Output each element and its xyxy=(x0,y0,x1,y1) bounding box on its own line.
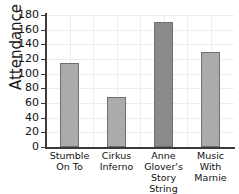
y-tick-label: 0 xyxy=(32,142,39,152)
y-tick-label: 120 xyxy=(18,54,39,64)
x-tick-label: MusicWithMarnie xyxy=(187,150,234,183)
x-axis-tick-labels: StumbleOn ToCirkusInfernoAnne Glover'sSt… xyxy=(46,150,234,194)
x-tick-label-line: With xyxy=(187,161,234,172)
y-tick-label: 80 xyxy=(25,83,39,93)
x-tick-label-line: Music xyxy=(187,150,234,161)
x-tick-label-line: Anne Glover's xyxy=(140,150,187,172)
y-tick-label: 140 xyxy=(18,39,39,49)
y-tick-label: 40 xyxy=(25,113,39,123)
bar xyxy=(60,63,79,147)
x-tick-label: Anne Glover'sStory StringWorld xyxy=(140,150,187,194)
x-tick-label: CirkusInferno xyxy=(93,150,140,172)
bar xyxy=(201,52,220,147)
y-axis-line xyxy=(45,13,47,149)
x-tick-label: StumbleOn To xyxy=(46,150,93,172)
bar-chart: Attendance 020406080100120140160180 Stum… xyxy=(0,0,239,194)
x-tick-label-line: On To xyxy=(46,161,93,172)
x-axis-line xyxy=(45,147,235,149)
y-tick-label: 100 xyxy=(18,69,39,79)
x-tick-label-line: Cirkus xyxy=(93,150,140,161)
bar-series xyxy=(46,15,234,147)
y-tick-label: 160 xyxy=(18,25,39,35)
x-tick-label-line: Stumble xyxy=(46,150,93,161)
x-tick-label-line: Inferno xyxy=(93,161,140,172)
y-tick-label: 180 xyxy=(18,10,39,20)
bar xyxy=(154,22,173,147)
y-tick-label: 20 xyxy=(25,127,39,137)
y-tick-label: 60 xyxy=(25,98,39,108)
x-tick-label-line: Story String xyxy=(140,172,187,194)
plot-area xyxy=(46,15,234,147)
y-axis-tick-labels: 020406080100120140160180 xyxy=(0,0,42,194)
bar xyxy=(107,97,126,147)
x-tick-label-line: Marnie xyxy=(187,172,234,183)
